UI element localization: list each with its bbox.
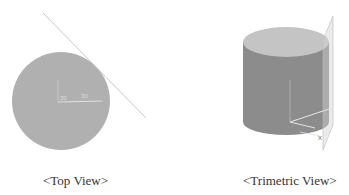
top-view-drawing: 30 30: [0, 0, 175, 195]
dimension-label-b: 30: [81, 93, 88, 99]
dimension-label-a: 30: [60, 95, 67, 101]
top-view-caption: <Top View>: [43, 173, 108, 189]
trimetric-view-drawing: X: [175, 0, 349, 195]
top-view-panel: 30 30 <Top View>: [0, 0, 175, 195]
axis-x-label: X: [318, 135, 322, 141]
cylinder-top: [243, 27, 329, 57]
trimetric-view-panel: X <Trimetric View>: [175, 0, 349, 195]
trimetric-view-caption: <Trimetric View>: [243, 173, 337, 189]
section-plane: [323, 16, 333, 150]
